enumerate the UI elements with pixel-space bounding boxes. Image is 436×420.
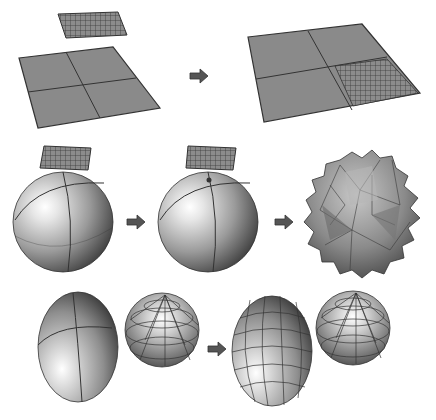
coarse-plane-refined-after xyxy=(248,24,420,122)
coarse-plane-before xyxy=(19,47,160,128)
spiky-distorted-sphere xyxy=(304,150,420,278)
arrow-right-icon xyxy=(208,342,226,356)
faceted-sphere-mesh-left xyxy=(125,293,199,367)
faceted-ellipsoid-mesh xyxy=(232,296,312,406)
faceted-sphere-mesh-right xyxy=(316,291,390,365)
smooth-ellipsoid xyxy=(38,292,118,402)
fine-grid-patch-row2-middle xyxy=(186,146,236,170)
diagram-canvas xyxy=(0,0,436,420)
fine-grid-patch-row1 xyxy=(58,12,127,38)
smooth-sphere-left xyxy=(13,172,113,272)
arrow-right-icon xyxy=(275,215,293,229)
arrow-right-icon xyxy=(127,215,145,229)
smooth-sphere-contact xyxy=(158,172,258,272)
fine-grid-patch-row2-left xyxy=(40,146,91,170)
arrow-right-icon xyxy=(190,69,208,83)
